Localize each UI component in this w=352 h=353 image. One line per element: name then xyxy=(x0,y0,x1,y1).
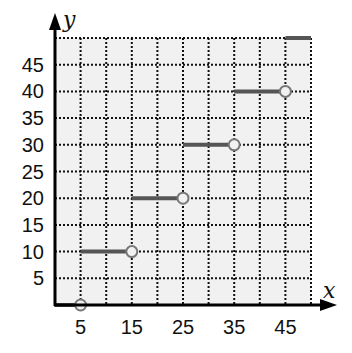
y-tick-label: 25 xyxy=(22,161,44,183)
y-tick-label: 40 xyxy=(22,80,44,102)
x-tick-label: 35 xyxy=(223,316,245,338)
open-circle-icon xyxy=(229,139,240,150)
step-function-chart: 51525354551015202530354045 x y xyxy=(0,0,352,353)
y-tick-label: 10 xyxy=(22,241,44,263)
y-tick-label: 20 xyxy=(22,187,44,209)
y-tick-label: 30 xyxy=(22,134,44,156)
open-circle-icon xyxy=(126,246,137,257)
x-tick-label: 25 xyxy=(172,316,194,338)
y-tick-label: 45 xyxy=(22,54,44,76)
x-axis-label: x xyxy=(323,278,336,303)
x-tick-label: 15 xyxy=(121,316,143,338)
open-circle-icon xyxy=(280,86,291,97)
x-tick-label: 45 xyxy=(274,316,296,338)
x-tick-label: 5 xyxy=(75,316,86,338)
y-tick-label: 35 xyxy=(22,107,44,129)
y-tick-label: 5 xyxy=(33,267,44,289)
open-circle-icon xyxy=(178,193,189,204)
y-axis-arrow-icon xyxy=(49,13,61,30)
y-tick-label: 15 xyxy=(22,214,44,236)
y-axis-label: y xyxy=(62,7,76,32)
